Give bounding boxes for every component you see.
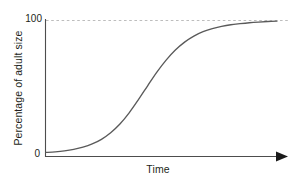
x-axis-arrowhead-icon — [276, 152, 288, 162]
y-axis-label: Percentage of adult size — [12, 18, 24, 158]
growth-curve-figure: Percentage of adult size Time 100 0 — [0, 0, 298, 182]
growth-curve-path — [46, 21, 277, 152]
y-axis-tick-label-100: 100 — [18, 13, 42, 24]
y-axis-tick-label-0: 0 — [26, 148, 40, 159]
chart-canvas — [0, 0, 298, 182]
x-axis-label: Time — [118, 163, 198, 175]
